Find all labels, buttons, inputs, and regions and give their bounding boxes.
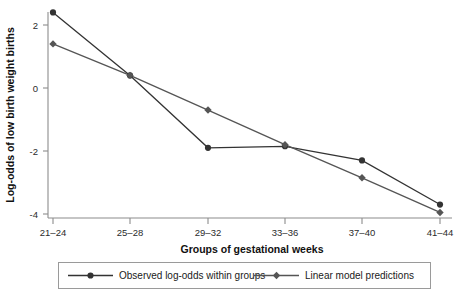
- data-point-circle-21–24: [50, 9, 56, 15]
- x-tick-label-3: 33–36: [272, 227, 298, 238]
- legend-label-observed: Observed log-odds within groups: [119, 270, 265, 281]
- x-axis-title: Groups of gestational weeks: [181, 243, 324, 255]
- y-tick-label-2: -2: [30, 146, 38, 157]
- chart-legend: Observed log-odds within groups Linear m…: [59, 263, 431, 289]
- x-tick-label-5: 41–44: [427, 227, 453, 238]
- chart-figure: 2 0 -2 -4 21–24 25–28 29–32 33–36 37–40 …: [0, 0, 458, 296]
- y-tick-label-0: 2: [33, 20, 38, 31]
- x-tick-label-4: 37–40: [349, 227, 375, 238]
- x-tick-label-0: 21–24: [40, 227, 66, 238]
- y-tick-label-3: -4: [30, 209, 38, 220]
- data-point-circle-29–32: [205, 145, 211, 151]
- data-point-circle-37–40: [359, 157, 365, 163]
- x-tick-label-2: 29–32: [195, 227, 221, 238]
- legend-label-predicted: Linear model predictions: [305, 270, 414, 281]
- y-axis-title: Log-odds of low birth weight births: [4, 27, 16, 203]
- legend-circle-icon: [87, 272, 93, 278]
- x-tick-label-1: 25–28: [117, 227, 143, 238]
- data-point-circle-41–44: [437, 201, 443, 207]
- y-tick-label-1: 0: [33, 83, 38, 94]
- log-odds-line-chart: 2 0 -2 -4 21–24 25–28 29–32 33–36 37–40 …: [0, 0, 458, 296]
